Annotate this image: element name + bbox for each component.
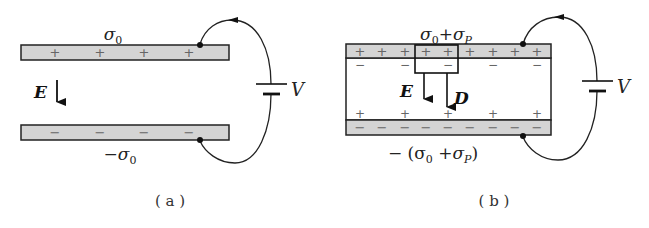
svg-text:+: + [443, 44, 454, 59]
svg-text:−: − [443, 120, 454, 135]
svg-text:−: − [443, 58, 453, 72]
svg-text:+: + [532, 107, 542, 121]
svg-text:−: − [355, 58, 365, 72]
svg-text:−: − [510, 120, 521, 135]
current-arrow-icon-a [228, 17, 238, 23]
battery-label-a: V [291, 79, 306, 100]
capacitor-diagram: + + + + σ0 − − − − −σ0 E V ( a ) [0, 0, 649, 228]
svg-text:−: − [355, 120, 366, 135]
panel-b: + + + + + + + + + σ0+σP − − − − − + + + … [346, 14, 632, 210]
svg-text:+: + [488, 44, 499, 59]
displacement-label-d-b: D [453, 88, 469, 108]
top-contact-b [520, 41, 526, 47]
svg-text:−: − [377, 120, 388, 135]
svg-text:−: − [488, 58, 498, 72]
svg-text:+: + [510, 44, 521, 59]
svg-text:+: + [377, 44, 388, 59]
top-plate-charges-b: + + + + + + + + + [355, 44, 543, 59]
svg-text:+: + [443, 107, 453, 121]
circuit-a: V [197, 17, 306, 163]
top-plate-label-a: σ0 [104, 24, 123, 47]
bottom-plate-label-a: −σ0 [104, 144, 137, 167]
svg-text:−: − [421, 120, 432, 135]
svg-text:−: − [400, 120, 411, 135]
svg-text:+: + [184, 45, 195, 60]
svg-text:−: − [532, 120, 543, 135]
svg-text:+: + [488, 107, 498, 121]
field-label-e-b: E [399, 81, 414, 101]
svg-text:+: + [50, 45, 61, 60]
panel-a: + + + + σ0 − − − − −σ0 E V ( a ) [21, 17, 306, 210]
svg-text:+: + [400, 44, 411, 59]
top-contact-a [197, 42, 203, 48]
bottom-contact-a [197, 137, 203, 143]
svg-text:−: − [95, 125, 106, 140]
svg-text:−: − [532, 58, 542, 72]
svg-text:−: − [139, 125, 150, 140]
svg-text:−: − [50, 125, 61, 140]
svg-text:−: − [488, 120, 499, 135]
current-arrow-icon-b [554, 14, 564, 20]
svg-text:−: − [465, 120, 476, 135]
svg-text:−: − [184, 125, 195, 140]
svg-text:+: + [400, 107, 410, 121]
bottom-contact-b [520, 133, 526, 139]
svg-text:+: + [355, 44, 366, 59]
svg-text:+: + [139, 45, 150, 60]
bottom-plate-charges-b: − − − − − − − − − [355, 120, 543, 135]
caption-a: ( a ) [155, 192, 185, 210]
svg-text:+: + [421, 44, 432, 59]
bottom-plate-label-b: − (σ0 +σP) [388, 143, 478, 166]
field-label-e-a: E [33, 82, 48, 102]
svg-text:+: + [532, 44, 543, 59]
top-plate-label-b: σ0+σP [420, 24, 472, 47]
svg-text:+: + [355, 107, 365, 121]
caption-b: ( b ) [479, 192, 510, 210]
battery-label-b: V [617, 76, 632, 97]
svg-text:−: − [400, 58, 410, 72]
svg-text:+: + [95, 45, 106, 60]
